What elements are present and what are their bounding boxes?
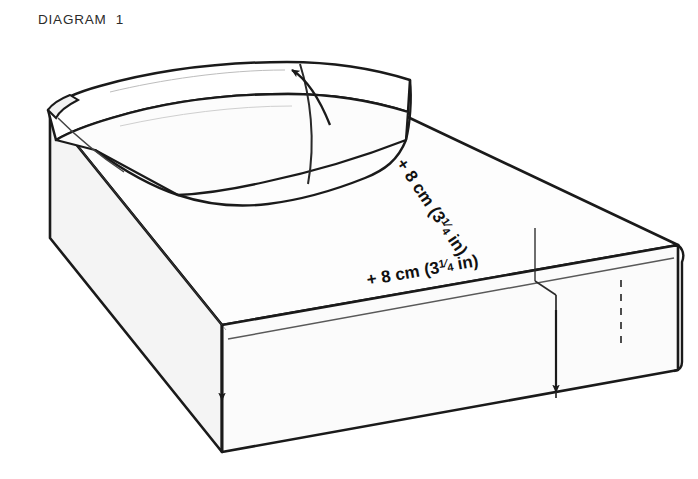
diagram-page: DIAGRAM 1 bbox=[0, 0, 698, 479]
mattress-diagram: + 8 cm (31⁄4 in) + 8 cm (31⁄4 in) bbox=[0, 0, 698, 479]
